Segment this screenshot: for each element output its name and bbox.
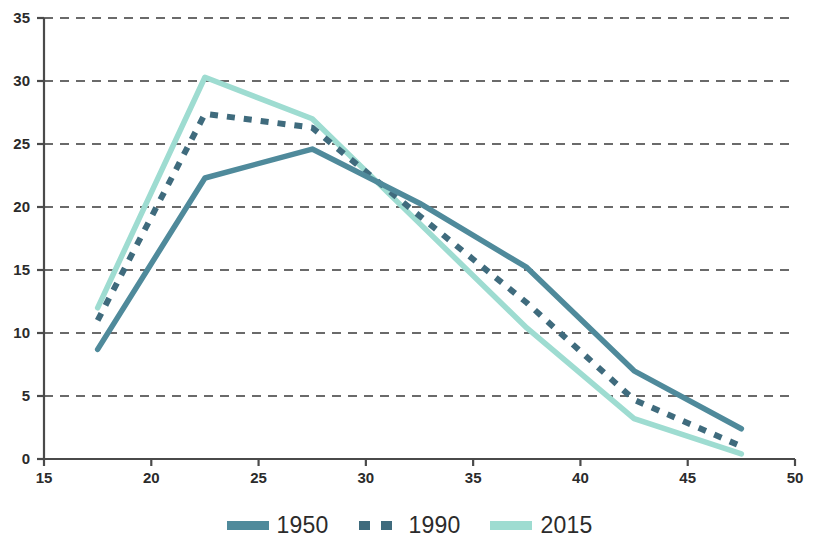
legend-swatch-1950 — [227, 521, 269, 530]
x-tick-label: 45 — [668, 469, 708, 486]
plot-area — [0, 0, 819, 541]
y-tick-label: 20 — [0, 198, 30, 215]
y-tick-label: 30 — [0, 72, 30, 89]
legend-label-2015: 2015 — [540, 512, 592, 539]
legend-label-1990: 1990 — [409, 512, 461, 539]
x-tick-label: 30 — [346, 469, 386, 486]
line-chart: 05101520253035 1520253035404550 19501990… — [0, 0, 819, 541]
y-tick-label: 25 — [0, 135, 30, 152]
data-series-group — [98, 77, 742, 454]
x-tick-label: 50 — [775, 469, 815, 486]
series-line-1950 — [98, 149, 742, 429]
axis-lines — [44, 18, 795, 459]
y-tick-label: 10 — [0, 324, 30, 341]
legend-label-1950: 1950 — [277, 512, 329, 539]
legend-item-1990[interactable]: 1990 — [359, 512, 461, 539]
legend-swatch-1990 — [359, 521, 401, 530]
y-tick-label: 0 — [0, 450, 30, 467]
gridlines — [44, 18, 795, 396]
legend-dash-segment — [359, 521, 370, 530]
y-tick-label: 35 — [0, 9, 30, 26]
x-tick-label: 20 — [131, 469, 171, 486]
x-tick-label: 40 — [560, 469, 600, 486]
legend-dash-segment — [381, 521, 392, 530]
x-tick-label: 35 — [453, 469, 493, 486]
x-tick-label: 15 — [24, 469, 64, 486]
legend-item-2015[interactable]: 2015 — [490, 512, 592, 539]
y-tick-label: 15 — [0, 261, 30, 278]
legend-item-1950[interactable]: 1950 — [227, 512, 329, 539]
chart-legend: 195019902015 — [0, 512, 819, 539]
y-tick-label: 5 — [0, 387, 30, 404]
legend-swatch-2015 — [490, 521, 532, 530]
x-tick-label: 25 — [239, 469, 279, 486]
